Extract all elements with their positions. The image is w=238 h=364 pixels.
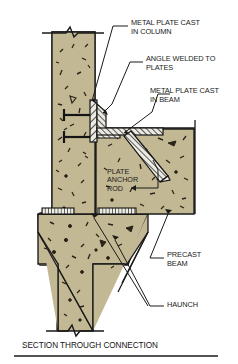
inner-label-line-3: ROD <box>107 184 123 193</box>
annotation-haunch: HAUNCH <box>167 301 198 310</box>
annotation-line-1: HAUNCH <box>167 300 198 309</box>
annotation-line-2: PLATES <box>146 63 173 72</box>
annotation-line-2: IN BEAM <box>150 95 180 104</box>
annotation-angle-welded-to-plates: ANGLE WELDED TOPLATES <box>146 55 215 72</box>
column-embed-plate[interactable] <box>90 100 97 142</box>
annotation-line-2: IN COLUMN <box>131 27 172 36</box>
haunch-bearing-plate-left <box>42 208 74 214</box>
haunch-bearing-plate-right <box>98 208 136 214</box>
drawing-caption: SECTION THROUGH CONNECTION <box>22 341 158 350</box>
annotation-precast-beam: PRECASTBEAM <box>167 251 201 268</box>
annotation-line-2: BEAM <box>167 259 188 268</box>
annotation-metal-plate-cast-in-beam: METAL PLATE CASTIN BEAM <box>150 87 219 104</box>
inner-label-plate-anchor-rod: PLATEANCHORROD <box>107 168 138 193</box>
annotation-metal-plate-cast-in-column: METAL PLATE CASTIN COLUMN <box>131 19 200 36</box>
precast-column-body <box>52 32 95 214</box>
